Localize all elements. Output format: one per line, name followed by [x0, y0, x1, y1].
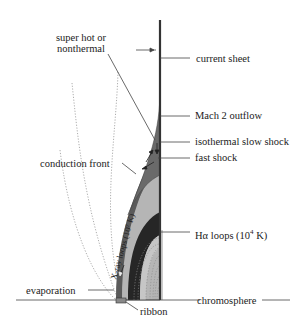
ribbon	[116, 298, 126, 303]
evaporation-label: evaporation	[26, 285, 76, 296]
fast-shock-label: fast shock	[195, 152, 237, 163]
slow-shock-label: isothermal slow shock	[195, 136, 289, 147]
flare-diagram: X-ray loops (10⁷ K) super hot or nonther…	[0, 0, 306, 334]
ribbon-label: ribbon	[140, 306, 167, 317]
super-hot-label-line1: super hot or	[54, 32, 108, 43]
super-hot-label-line2: nonthermal	[54, 43, 108, 54]
halpha-prefix: Hα loops (10	[195, 230, 250, 241]
mach2-outflow-label: Mach 2 outflow	[195, 110, 262, 121]
halpha-loops-label: Hα loops (104 K)	[195, 227, 267, 241]
current-sheet-label: current sheet	[196, 53, 250, 64]
super-hot-label: super hot or nonthermal	[54, 32, 108, 54]
chromosphere-label: chromosphere	[197, 295, 256, 306]
halpha-suffix: K)	[254, 230, 268, 241]
conduction-front-label: conduction front	[40, 158, 110, 169]
